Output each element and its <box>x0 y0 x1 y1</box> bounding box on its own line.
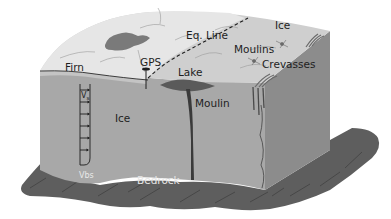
label-firn: Firn <box>65 61 84 73</box>
label-bedrock: Bedrock <box>137 174 181 186</box>
label-crevasses: Crevasses <box>262 58 315 70</box>
ice-front-face <box>40 71 265 190</box>
label-gps: GPS <box>140 56 161 68</box>
label-vbs: Vbs <box>79 171 94 180</box>
label-ice-surface: Ice <box>275 19 290 31</box>
label-lake: Lake <box>178 66 202 78</box>
label-eq-line: Eq. Line <box>186 29 228 41</box>
label-moulin: Moulin <box>195 97 230 109</box>
glacier-diagram: Firn GPS Eq. Line Ice Moulins Crevasses … <box>0 0 391 219</box>
label-moulins: Moulins <box>234 43 274 55</box>
label-ice-body: Ice <box>115 112 130 124</box>
